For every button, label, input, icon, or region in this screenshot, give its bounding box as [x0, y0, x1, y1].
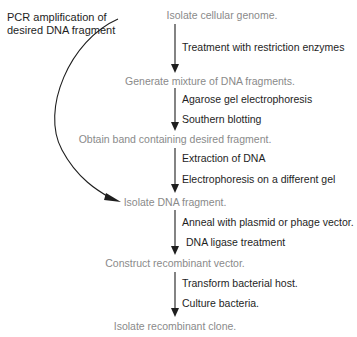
transition-label: Anneal with plasmid or phage vector.: [182, 216, 354, 228]
curved-arrow-icon: [55, 19, 121, 202]
step-isolate-genome: Isolate cellular genome.: [167, 9, 278, 21]
pcr-shortcut-label: PCR amplification of desired DNA fragmen…: [7, 11, 117, 37]
transition-label: Electrophoresis on a different gel: [182, 173, 335, 185]
step-obtain-band: Obtain band containing desired fragment.: [79, 133, 272, 145]
transition-label: Treatment with restriction enzymes: [182, 41, 344, 53]
arrow-down-icon: [171, 88, 179, 131]
step-construct-vector: Construct recombinant vector.: [105, 257, 244, 269]
arrow-down-icon: [171, 272, 179, 317]
transition-label: DNA ligase treatment: [186, 236, 285, 248]
arrow-down-icon: [171, 24, 179, 73]
arrow-down-icon: [171, 210, 179, 255]
transition-label: Southern blotting: [182, 113, 261, 125]
transition-label: Extraction of DNA: [182, 152, 265, 164]
step-generate-mixture: Generate mixture of DNA fragments.: [125, 75, 295, 87]
transition-label: Transform bacterial host.: [182, 277, 298, 289]
transition-label: Agarose gel electrophoresis: [182, 93, 312, 105]
transition-label: Culture bacteria.: [182, 297, 259, 309]
step-isolate-fragment: Isolate DNA fragment.: [124, 196, 227, 208]
arrow-down-icon: [171, 148, 179, 193]
step-isolate-clone: Isolate recombinant clone.: [114, 320, 237, 332]
